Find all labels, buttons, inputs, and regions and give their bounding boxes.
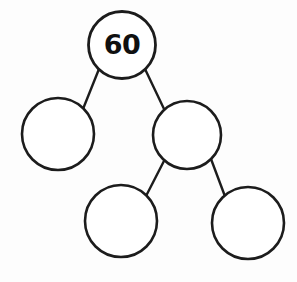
number-bond-canvas: 60 (0, 0, 297, 282)
connector-right-child-to-bottom-right (211, 159, 226, 199)
node-bottom-left-child[interactable] (85, 185, 157, 257)
number-bond-diagram: 60 (0, 0, 297, 282)
connector-right-child-to-bottom-left (145, 159, 165, 198)
node-group (22, 12, 284, 260)
connector-root-to-left-child (83, 69, 99, 109)
node-left-child[interactable] (22, 98, 94, 170)
node-bottom-right-child[interactable] (212, 187, 284, 259)
node-root-label: 60 (104, 29, 141, 60)
connector-root-to-right-child (145, 69, 165, 111)
label-group: 60 (104, 29, 141, 60)
node-right-child[interactable] (153, 101, 221, 169)
